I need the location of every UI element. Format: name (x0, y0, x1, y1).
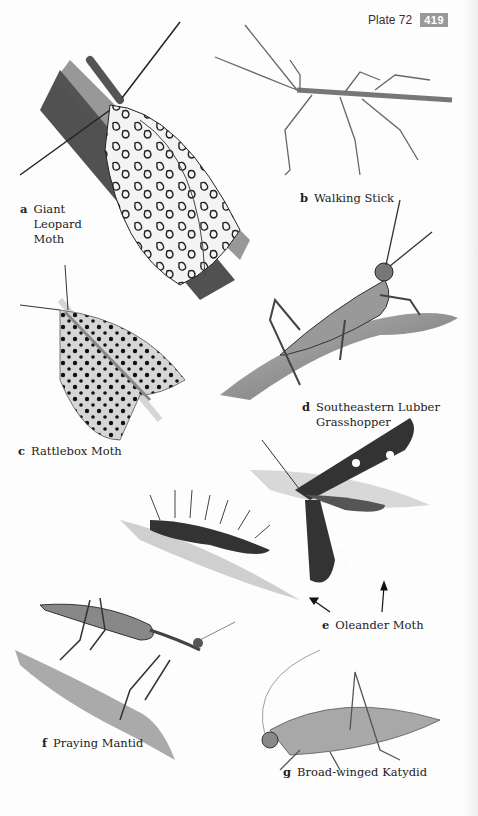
label-lubber-grasshopper: dSoutheastern LubberGrasshopper (302, 400, 472, 430)
label-letter: c (18, 444, 25, 458)
label-letter: e (322, 618, 329, 632)
label-walking-stick: bWalking Stick (300, 191, 394, 206)
label-letter: b (300, 191, 308, 205)
label-letter: d (302, 400, 310, 414)
label-letter: g (283, 765, 291, 779)
walking-stick-illustration (215, 25, 452, 175)
pointer-arrows (310, 582, 387, 612)
lubber-grasshopper-illustration (220, 200, 458, 400)
label-name: Broad-winged Katydid (297, 765, 427, 779)
label-name: Praying Mantid (53, 736, 143, 750)
field-guide-plate: Plate 72 419 (0, 0, 478, 816)
label-line: Southeastern Lubber (316, 400, 440, 414)
label-name: Rattlebox Moth (31, 444, 122, 458)
label-name: Walking Stick (314, 191, 394, 205)
label-letter: f (42, 736, 47, 750)
label-broad-winged-katydid: gBroad-winged Katydid (283, 765, 427, 780)
label-rattlebox-moth: cRattlebox Moth (18, 444, 122, 459)
label-oleander-moth: eOleander Moth (322, 618, 424, 633)
oleander-moth-illustration (250, 418, 430, 583)
rattlebox-moth-illustration (20, 265, 185, 440)
oleander-caterpillar-illustration (120, 490, 300, 600)
label-praying-mantid: fPraying Mantid (42, 736, 143, 751)
label-line: Moth (33, 232, 64, 246)
broad-winged-katydid-illustration (262, 650, 440, 770)
giant-leopard-moth-illustration (20, 22, 250, 300)
label-name: Oleander Moth (335, 618, 423, 632)
label-letter: a (20, 202, 27, 216)
label-line: Grasshopper (316, 415, 391, 429)
label-giant-leopard-moth: aGiantLeopardMoth (20, 202, 110, 247)
label-line: Giant (33, 202, 65, 216)
label-line: Leopard (33, 217, 81, 231)
